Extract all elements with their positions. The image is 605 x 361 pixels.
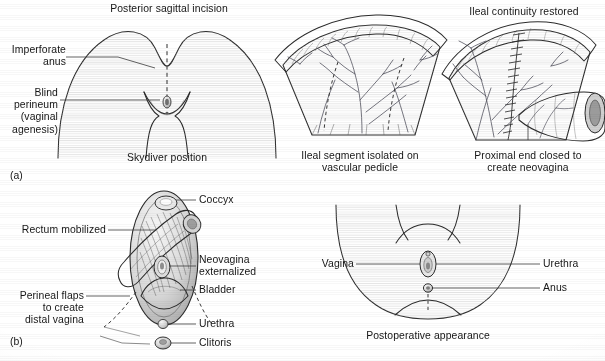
label-urethra-postop: Urethra	[543, 258, 578, 270]
panel-a-illustration	[58, 32, 276, 158]
label-clitoris: Clitoris	[199, 337, 232, 349]
label-imperforate-anus: Imperforate anus	[0, 44, 66, 68]
label-bladder: Bladder	[199, 284, 236, 296]
perineum-dimple	[166, 112, 169, 114]
panel-ileal-continuity-caption-line1: Proximal end closed to	[452, 150, 604, 162]
panel-a-id: (a)	[10, 170, 23, 181]
label-anus-postop: Anus	[543, 282, 567, 294]
panel-postop-caption: Postoperative appearance	[358, 330, 498, 342]
label-coccyx: Coccyx	[199, 194, 234, 206]
panel-a-title: Posterior sagittal incision	[84, 3, 254, 15]
label-urethra-b: Urethra	[199, 318, 234, 330]
panel-ileal-continuity-caption-line2: create neovagina	[452, 162, 604, 174]
perineal-flap-dashed-left	[104, 292, 136, 327]
panel-ileal-segment-caption-line1: Ileal segment isolated on	[275, 150, 445, 162]
panel-ileal-segment-caption-line2: vascular pedicle	[275, 162, 445, 174]
surgical-figure: Posterior sagittal incision Imperforate …	[0, 0, 605, 361]
panel-ileal-segment-illustration	[275, 15, 447, 135]
panel-ileal-continuity-illustration	[442, 22, 605, 141]
label-rectum-mobilized: Rectum mobilized	[0, 224, 106, 236]
panel-postop-illustration	[336, 205, 540, 319]
urethra-opening-postop	[426, 252, 430, 256]
panel-a-caption: Skydiver position	[102, 152, 232, 164]
panel-b-illustration	[86, 191, 212, 349]
panel-ileal-continuity-title: Ileal continuity restored	[444, 6, 604, 18]
panel-b-id: (b)	[10, 336, 23, 347]
figure-canvas	[0, 0, 605, 361]
label-blind-perineum: Blind perineum (vaginal agenesis)	[0, 87, 58, 136]
label-perineal-flaps: Perineal flaps to create distal vagina	[0, 290, 84, 327]
urethra-opening	[158, 319, 168, 328]
label-vagina: Vagina	[300, 258, 354, 270]
label-neovagina-externalized: Neovagina externalized	[199, 254, 256, 278]
